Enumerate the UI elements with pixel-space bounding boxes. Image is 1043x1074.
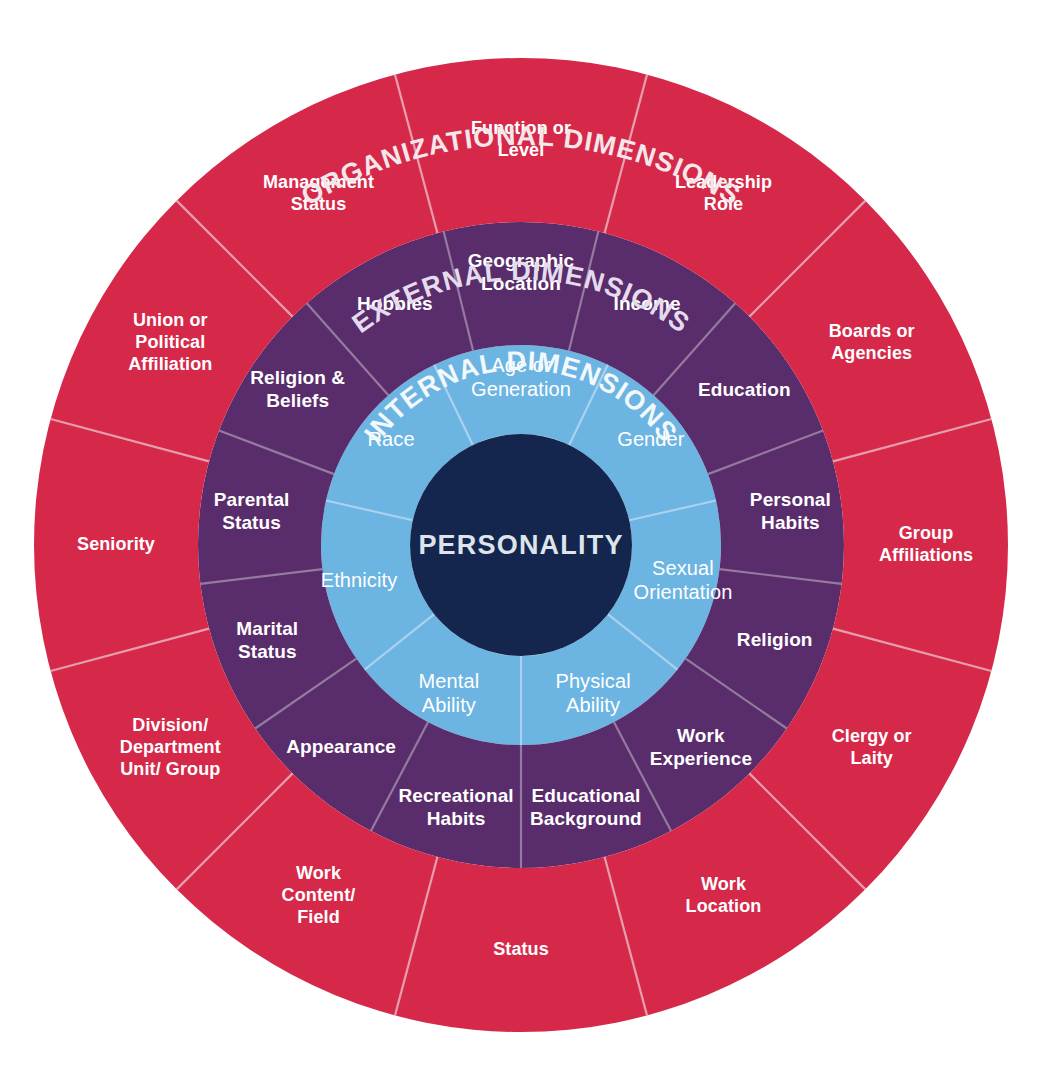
segment-label: Division/DepartmentUnit/ Group [120,714,221,778]
diversity-wheel-diagram: Age orGenerationGenderSexualOrientationP… [0,0,1043,1074]
segment-label: Ethnicity [321,569,398,591]
wheel-svg: Age orGenerationGenderSexualOrientationP… [0,0,1043,1074]
segment-label: Status [493,939,549,959]
segment-label: Seniority [77,534,155,554]
segment-label: Religion [737,629,813,650]
segment-label: Union orPoliticalAffiliation [128,309,212,373]
segment-label: Education [698,379,791,400]
core-label: PERSONALITY [418,530,623,560]
segment-label: Appearance [286,736,396,757]
